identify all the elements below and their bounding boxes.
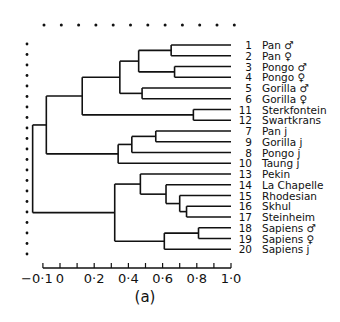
frame-dot	[94, 24, 97, 27]
frame-dot	[77, 24, 80, 27]
axis-tick-label: 0·6	[152, 271, 173, 286]
frame-dot	[26, 43, 29, 46]
frame-dot	[26, 148, 29, 151]
axis-tick-label: 0·2	[84, 271, 105, 286]
frame-dot	[26, 242, 29, 245]
frame-dot	[26, 232, 29, 235]
frame-dot	[43, 24, 46, 27]
frame-dot	[26, 74, 29, 77]
leaf-number: 20	[239, 243, 252, 255]
frame-dot	[26, 200, 29, 203]
frame-dot	[26, 190, 29, 193]
axis-tick-label: 0	[56, 271, 64, 286]
frame-dot	[26, 137, 29, 140]
leaf-labels: 1Pan ♂2Pan ♀3Pongo ♂4Pongo ♀5Gorilla ♂6G…	[239, 39, 327, 255]
frame-dot	[112, 24, 115, 27]
frame-dot	[129, 24, 132, 27]
frame-dot	[26, 169, 29, 172]
frame-dot	[26, 211, 29, 214]
dendrogram-figure: 1Pan ♂2Pan ♀3Pongo ♂4Pongo ♀5Gorilla ♂6G…	[0, 0, 340, 322]
axis-tick-label: −0·1	[21, 271, 53, 286]
frame-dot	[216, 24, 219, 27]
frame-dot	[26, 253, 29, 256]
frame-dot	[26, 53, 29, 56]
frame-dot	[26, 179, 29, 182]
dendrogram-branches	[33, 45, 231, 249]
leaf-label: Sapiens j	[262, 243, 310, 255]
x-axis: −0·100·20·40·60·81·0	[21, 263, 241, 286]
dotted-frame	[26, 24, 236, 256]
frame-dot	[181, 24, 184, 27]
figure-caption: (a)	[0, 288, 290, 306]
frame-dot	[233, 24, 236, 27]
frame-dot	[164, 24, 167, 27]
frame-dot	[146, 24, 149, 27]
axis-tick-label: 0·8	[186, 271, 207, 286]
frame-dot	[26, 85, 29, 88]
frame-dot	[26, 106, 29, 109]
axis-tick-label: 1·0	[221, 271, 242, 286]
frame-dot	[26, 127, 29, 130]
frame-dot	[60, 24, 63, 27]
frame-dot	[26, 221, 29, 224]
frame-dot	[26, 95, 29, 98]
axis-tick-label: 0·4	[118, 271, 139, 286]
frame-dot	[26, 158, 29, 161]
dendrogram-plot: 1Pan ♂2Pan ♀3Pongo ♂4Pongo ♀5Gorilla ♂6G…	[0, 0, 340, 322]
frame-dot	[26, 64, 29, 67]
frame-dot	[26, 116, 29, 119]
frame-dot	[198, 24, 201, 27]
